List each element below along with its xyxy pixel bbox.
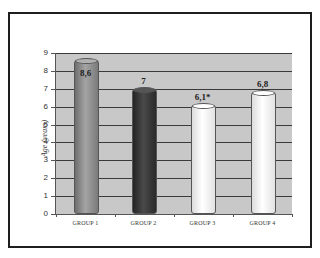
x-tick-label: GROUP 4 (238, 220, 288, 226)
x-tick-label: GROUP 3 (178, 220, 228, 226)
data-label: 8,6 (66, 68, 106, 78)
y-tick-mark (51, 178, 56, 179)
y-tick-mark (51, 196, 56, 197)
bar-cap (75, 58, 98, 64)
bar-cap (133, 87, 156, 93)
gridline (56, 53, 292, 54)
x-tick-mark (115, 214, 116, 217)
data-label: 6,8 (243, 79, 283, 89)
bar-group-1 (74, 60, 99, 214)
bar-group-3 (191, 105, 216, 214)
y-axis-title: Age (years) (40, 109, 49, 169)
y-tick-mark (51, 160, 56, 161)
bar-cap (192, 103, 215, 109)
y-tick-mark (51, 89, 56, 90)
y-axis (55, 53, 56, 215)
data-label: 6,1* (183, 92, 223, 102)
x-tick-mark (233, 214, 234, 217)
y-tick-label: 1 (38, 192, 48, 200)
x-tick-label: GROUP 1 (61, 220, 111, 226)
y-tick-label: 0 (38, 210, 48, 218)
y-tick-mark (51, 71, 56, 72)
y-tick-label: 9 (38, 49, 48, 57)
y-tick-mark (51, 125, 56, 126)
data-label: 7 (124, 76, 164, 86)
bar-group-2 (132, 89, 157, 214)
x-tick-mark (292, 214, 293, 217)
bar-group-4 (251, 92, 276, 214)
y-tick-mark (51, 107, 56, 108)
x-tick-label: GROUP 2 (119, 220, 169, 226)
y-tick-mark (51, 142, 56, 143)
y-tick-mark (51, 53, 56, 54)
y-tick-label: 8 (38, 67, 48, 75)
y-tick-label: 2 (38, 174, 48, 182)
y-tick-label: 7 (38, 85, 48, 93)
x-tick-mark (56, 214, 57, 217)
x-tick-mark (174, 214, 175, 217)
bar-cap (252, 90, 275, 96)
